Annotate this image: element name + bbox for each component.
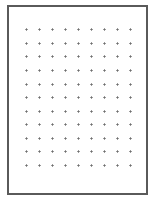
plus-dot-icon	[90, 137, 93, 140]
plus-dot-icon	[90, 83, 93, 86]
dot-center	[39, 124, 40, 125]
dot-center	[26, 138, 27, 139]
plus-dot-icon	[51, 28, 54, 31]
dot-center	[91, 111, 92, 112]
plus-dot-icon	[77, 83, 80, 86]
plus-dot-icon	[51, 96, 54, 99]
dot-center	[91, 84, 92, 85]
dot-center	[78, 43, 79, 44]
dot-center	[104, 165, 105, 166]
dot-center	[52, 56, 53, 57]
plus-dot-icon	[116, 137, 119, 140]
plus-dot-icon	[129, 110, 132, 113]
dot-center	[65, 124, 66, 125]
plus-dot-icon	[64, 164, 67, 167]
dot-center	[39, 29, 40, 30]
plus-dot-icon	[116, 55, 119, 58]
plus-dot-icon	[25, 150, 28, 153]
dot-center	[130, 70, 131, 71]
plus-dot-icon	[129, 28, 132, 31]
plus-dot-icon	[129, 55, 132, 58]
dot-center	[39, 165, 40, 166]
plus-dot-icon	[116, 123, 119, 126]
dot-center	[52, 111, 53, 112]
plus-dot-icon	[103, 137, 106, 140]
dot-center	[130, 165, 131, 166]
plus-dot-icon	[90, 150, 93, 153]
dot-center	[39, 84, 40, 85]
plus-dot-icon	[90, 96, 93, 99]
dot-center	[117, 29, 118, 30]
dot-center	[26, 43, 27, 44]
dot-center	[91, 56, 92, 57]
dot-center	[26, 111, 27, 112]
dot-center	[104, 111, 105, 112]
dot-center	[104, 56, 105, 57]
dot-center	[104, 29, 105, 30]
dot-center	[78, 70, 79, 71]
plus-dot-icon	[77, 28, 80, 31]
plus-dot-icon	[90, 42, 93, 45]
plus-dot-icon	[38, 110, 41, 113]
dot-center	[117, 124, 118, 125]
dot-center	[130, 84, 131, 85]
plus-dot-icon	[129, 137, 132, 140]
dot-center	[65, 165, 66, 166]
plus-dot-icon	[129, 150, 132, 153]
dot-center	[91, 124, 92, 125]
plus-dot-icon	[90, 55, 93, 58]
plus-dot-icon	[77, 96, 80, 99]
plus-dot-icon	[129, 42, 132, 45]
plus-dot-icon	[64, 83, 67, 86]
dot-center	[91, 70, 92, 71]
dot-center	[91, 138, 92, 139]
dot-center	[65, 43, 66, 44]
plus-dot-icon	[103, 96, 106, 99]
plus-dot-icon	[103, 164, 106, 167]
plus-dot-icon	[116, 110, 119, 113]
dot-grid	[9, 7, 146, 193]
plus-dot-icon	[38, 150, 41, 153]
dot-center	[117, 97, 118, 98]
dot-center	[65, 84, 66, 85]
dot-center	[104, 84, 105, 85]
dot-center	[65, 111, 66, 112]
dot-center	[26, 97, 27, 98]
plus-dot-icon	[38, 83, 41, 86]
dot-center	[78, 165, 79, 166]
plus-dot-icon	[25, 83, 28, 86]
dot-center	[65, 138, 66, 139]
dot-center	[39, 151, 40, 152]
plus-dot-icon	[51, 123, 54, 126]
plus-dot-icon	[90, 110, 93, 113]
plus-dot-icon	[51, 164, 54, 167]
plus-dot-icon	[77, 55, 80, 58]
dot-center	[39, 97, 40, 98]
dot-center	[91, 97, 92, 98]
dot-center	[39, 70, 40, 71]
plus-dot-icon	[116, 83, 119, 86]
plus-dot-icon	[77, 42, 80, 45]
dot-center	[130, 151, 131, 152]
plus-dot-icon	[77, 164, 80, 167]
dot-center	[78, 111, 79, 112]
plus-dot-icon	[77, 110, 80, 113]
plus-dot-icon	[51, 55, 54, 58]
dot-center	[52, 151, 53, 152]
plus-dot-icon	[129, 69, 132, 72]
plus-dot-icon	[38, 42, 41, 45]
dot-center	[65, 56, 66, 57]
plus-dot-icon	[116, 69, 119, 72]
dot-center	[130, 43, 131, 44]
plus-dot-icon	[38, 55, 41, 58]
plus-dot-icon	[38, 164, 41, 167]
plus-dot-icon	[51, 42, 54, 45]
dot-center	[130, 111, 131, 112]
plus-dot-icon	[25, 42, 28, 45]
plus-dot-icon	[25, 96, 28, 99]
dot-center	[39, 138, 40, 139]
dot-center	[130, 124, 131, 125]
dot-center	[91, 165, 92, 166]
dot-center	[130, 138, 131, 139]
plus-dot-icon	[116, 96, 119, 99]
